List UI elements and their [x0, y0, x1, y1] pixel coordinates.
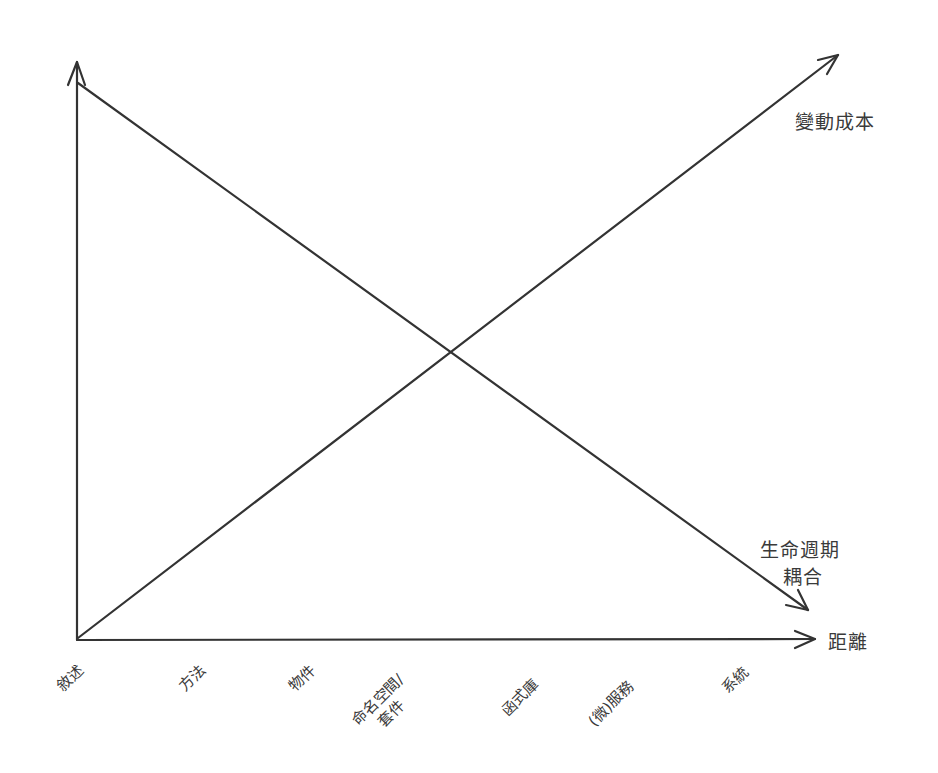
x-axis [77, 639, 815, 640]
lifecycle-coupling-label-line2: 耦合 [783, 562, 823, 589]
change-cost-label: 變動成本 [795, 107, 875, 134]
lifecycle-coupling-label-line1: 生命週期 [760, 535, 840, 562]
x-axis-label: 距離 [828, 627, 868, 654]
